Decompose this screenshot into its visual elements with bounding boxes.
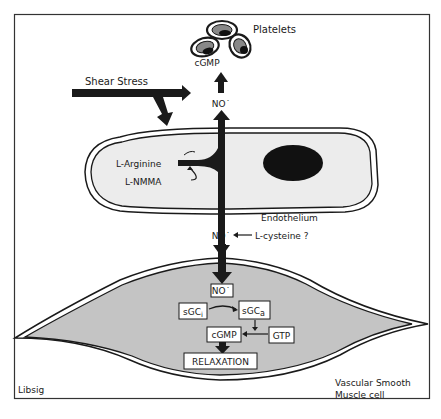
platelet-cgmp-label: cGMP xyxy=(194,58,220,68)
endothelium-label: Endothelium xyxy=(261,213,318,223)
shear-stress-label: Shear Stress xyxy=(85,76,148,87)
smooth-muscle-label-line2: Muscle cell xyxy=(335,390,385,400)
credit-label: Libsig xyxy=(18,385,44,395)
relaxation-label: RELAXATION xyxy=(192,357,249,367)
no-label-lower: NO˙ xyxy=(212,231,230,241)
nucleus xyxy=(263,145,323,181)
smooth-muscle-label-line1: Vascular Smooth xyxy=(335,378,411,388)
endothelium-cell xyxy=(85,128,378,214)
gtp-label: GTP xyxy=(273,331,291,341)
platelets-label: Platelets xyxy=(253,24,296,35)
l-cysteine-label: L-cysteine ? xyxy=(255,231,309,241)
no-label-upper: NO˙ xyxy=(212,99,230,109)
l-nmma-label: L-NMMA xyxy=(125,177,162,187)
no-label-inside: NO˙ xyxy=(212,286,230,296)
no-pathway-diagram: Platelets cGMP NO˙ Shear Stress L-Argini… xyxy=(0,0,441,419)
cgmp-label: cGMP xyxy=(211,330,237,340)
l-arginine-label: L-Arginine xyxy=(116,159,162,169)
